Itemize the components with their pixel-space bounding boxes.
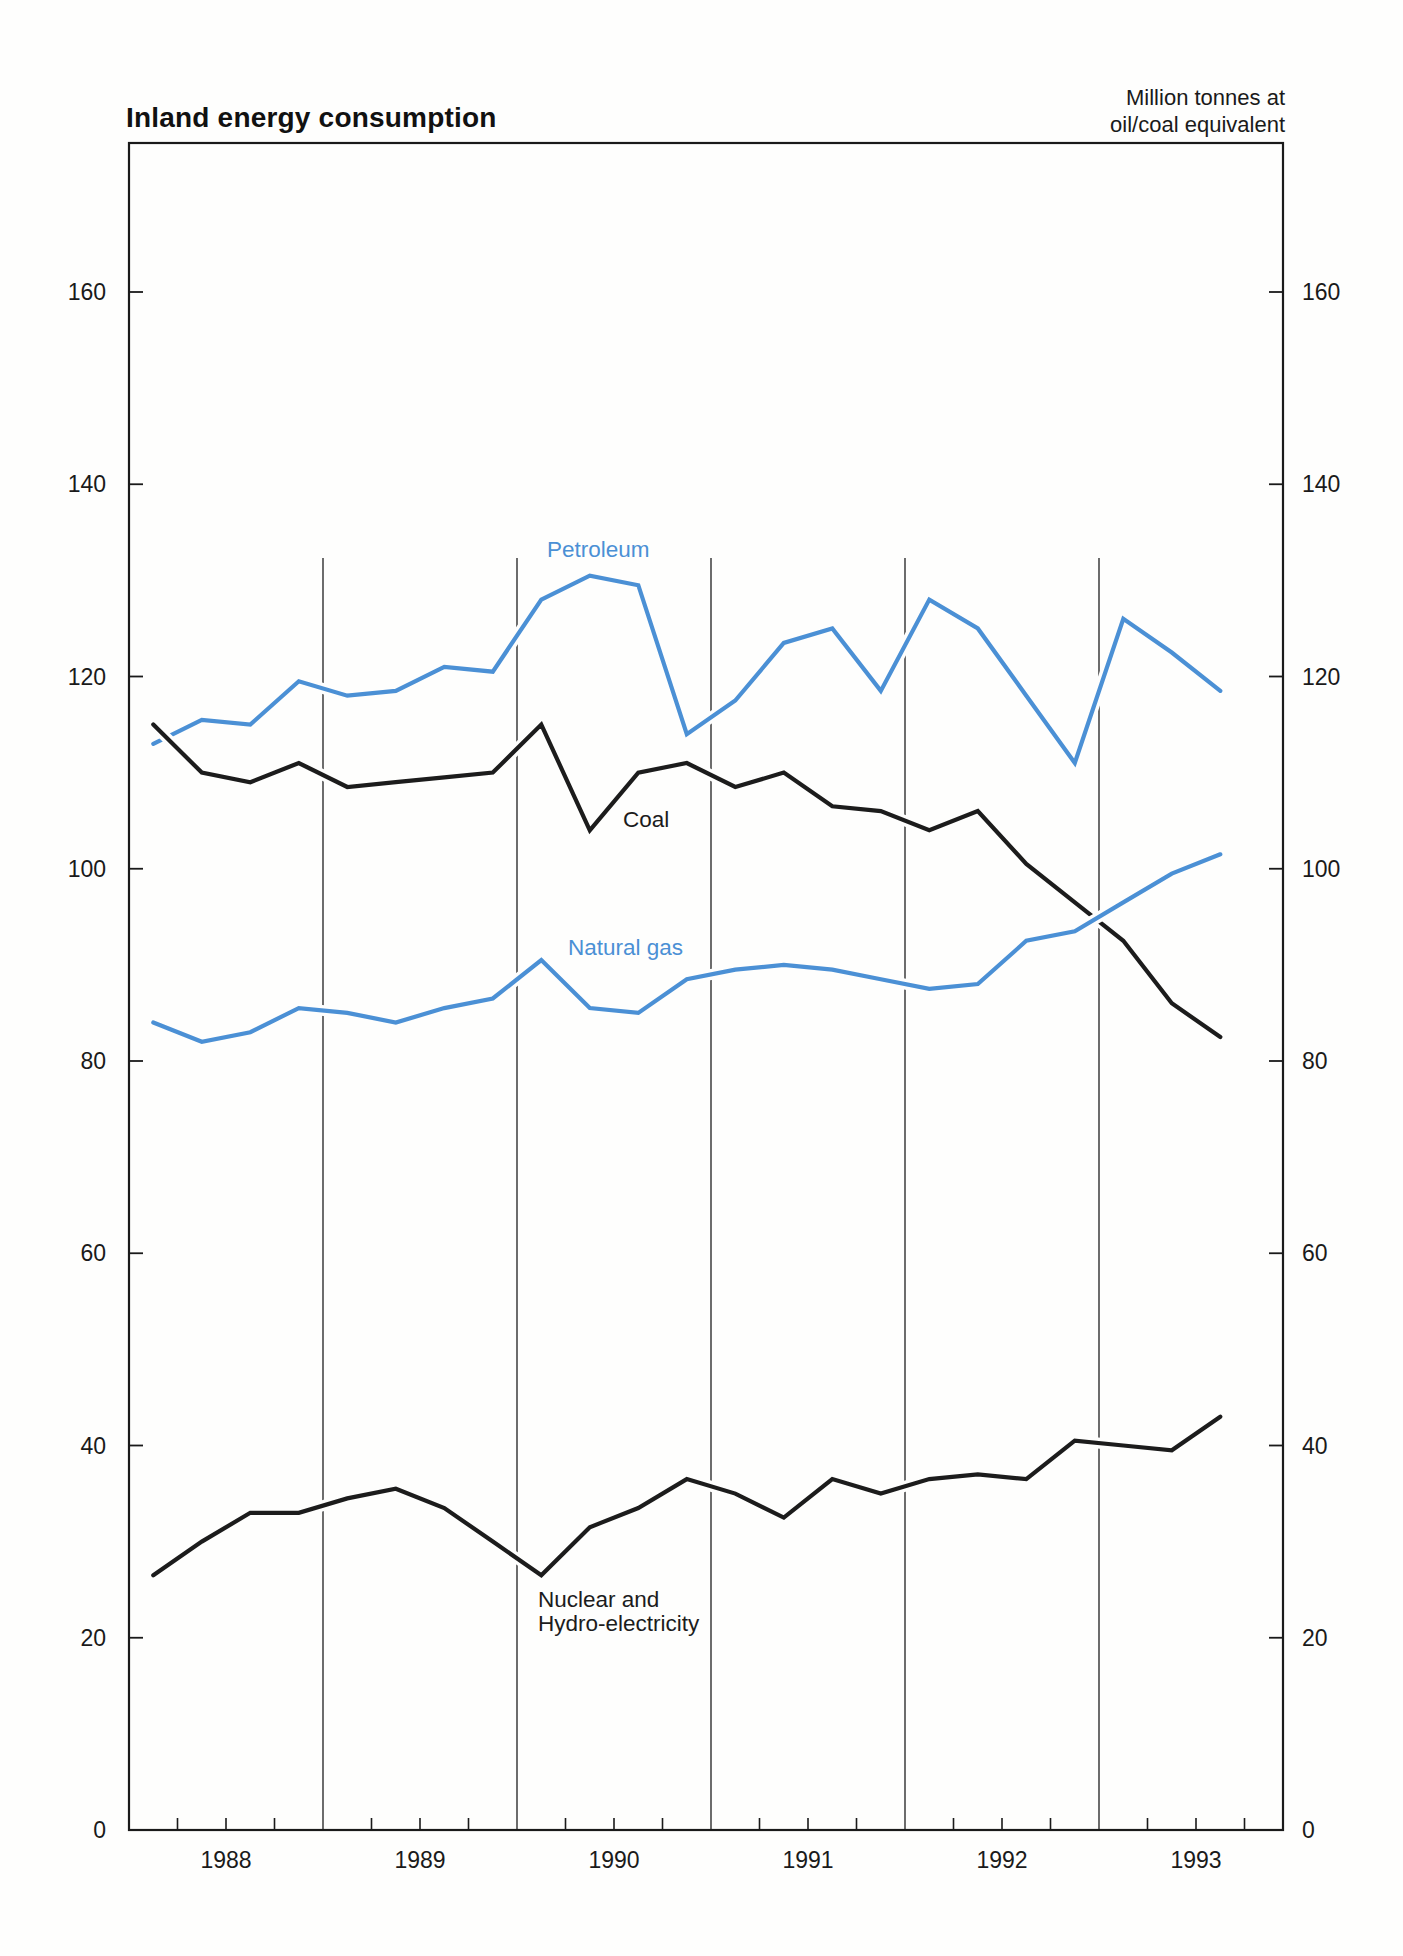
- y-axis-label-left: 80: [80, 1048, 106, 1074]
- y-axis-label-right: 80: [1302, 1048, 1328, 1074]
- series-line-coal: [153, 725, 1220, 1037]
- series-label-natural-gas: Natural gas: [568, 935, 683, 960]
- series-halo: [153, 854, 1220, 1042]
- x-axis-year-label: 1992: [976, 1847, 1027, 1873]
- series-label-nuclear-and-hydro-electricity: Nuclear and: [538, 1587, 659, 1612]
- y-axis-label-right: 20: [1302, 1625, 1328, 1651]
- plot-frame: [129, 143, 1283, 1830]
- y-axis-label-right: 120: [1302, 664, 1340, 690]
- y-axis-label-right: 60: [1302, 1240, 1328, 1266]
- y-axis-label-left: 40: [80, 1433, 106, 1459]
- series-label-nuclear-and-hydro-electricity: Hydro-electricity: [538, 1611, 700, 1636]
- scanned-chart-page: Inland energy consumption Million tonnes…: [0, 0, 1403, 1956]
- x-axis-year-label: 1991: [782, 1847, 833, 1873]
- y-axis-label-right: 140: [1302, 471, 1340, 497]
- x-axis-year-label: 1993: [1170, 1847, 1221, 1873]
- x-axis-year-label: 1988: [200, 1847, 251, 1873]
- y-axis-label-left: 20: [80, 1625, 106, 1651]
- y-axis-label-left: 60: [80, 1240, 106, 1266]
- y-axis-label-right: 40: [1302, 1433, 1328, 1459]
- y-axis-label-left: 120: [68, 664, 106, 690]
- energy-consumption-line-chart: 0020204040606080801001001201201401401601…: [0, 0, 1403, 1956]
- y-axis-label-left: 0: [93, 1817, 106, 1843]
- y-axis-label-left: 160: [68, 279, 106, 305]
- series-label-petroleum: Petroleum: [547, 537, 650, 562]
- series-label-coal: Coal: [623, 807, 669, 832]
- series-halo: [153, 1417, 1220, 1576]
- y-axis-label-right: 100: [1302, 856, 1340, 882]
- x-axis-year-label: 1990: [588, 1847, 639, 1873]
- y-axis-label-left: 140: [68, 471, 106, 497]
- x-axis-year-label: 1989: [394, 1847, 445, 1873]
- y-axis-label-right: 160: [1302, 279, 1340, 305]
- series-line-nuclear-and-hydro-electricity: [153, 1417, 1220, 1576]
- y-axis-label-left: 100: [68, 856, 106, 882]
- y-axis-label-right: 0: [1302, 1817, 1315, 1843]
